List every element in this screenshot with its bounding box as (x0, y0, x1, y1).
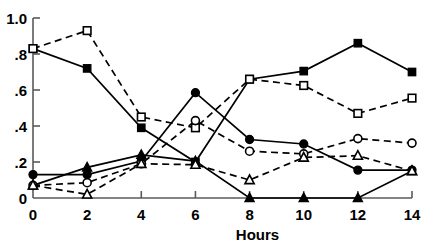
y-tick-label: .4 (14, 118, 27, 135)
x-tick-label: 0 (29, 206, 37, 223)
series-filled-circle-marker (300, 140, 308, 148)
series-open-square-marker (408, 94, 416, 102)
x-tick-label: 2 (83, 206, 91, 223)
series-filled-square-marker (408, 68, 415, 75)
series-markers (28, 27, 416, 202)
series-filled-square-marker (354, 40, 361, 47)
series-filled-circle-marker (246, 136, 254, 144)
series-open-circle-marker (408, 139, 416, 147)
series-line-filled-circle (33, 93, 412, 175)
series-filled-circle-marker (191, 89, 199, 97)
series-filled-square-marker (300, 67, 307, 74)
x-tick-label: 6 (191, 206, 199, 223)
series-filled-circle-marker (29, 171, 37, 179)
series-open-circle-marker (354, 135, 362, 143)
y-tick-label: 1.0 (6, 10, 27, 27)
series-open-square-marker (137, 113, 145, 121)
series-open-circle-marker (191, 117, 199, 125)
line-chart: 0.2.4.6.81.002468101214Hours (0, 0, 428, 246)
series-open-square-marker (29, 45, 37, 53)
x-tick-label: 10 (295, 206, 312, 223)
series-line-filled-square (33, 43, 412, 162)
series-open-square-marker (300, 82, 308, 90)
series-open-circle-marker (246, 147, 254, 155)
x-tick-label: 14 (404, 206, 421, 223)
x-tick-label: 12 (350, 206, 367, 223)
series-open-square-marker (246, 75, 254, 83)
y-tick-label: .6 (14, 82, 27, 99)
x-tick-label: 8 (245, 206, 253, 223)
series-open-circle-marker (83, 179, 91, 187)
series-filled-square-marker (83, 65, 90, 72)
series-open-square-marker (83, 27, 91, 35)
x-axis-title: Hours (236, 226, 279, 243)
y-tick-label: .2 (14, 154, 27, 171)
chart-container: 0.2.4.6.81.002468101214Hours (0, 0, 428, 246)
series-filled-square (29, 40, 415, 166)
y-tick-label: 0 (19, 190, 27, 207)
series-filled-circle-marker (83, 171, 91, 179)
series-filled-square-marker (138, 124, 145, 131)
series-open-square-marker (354, 110, 362, 118)
x-tick-label: 4 (137, 206, 146, 223)
series-filled-circle-marker (354, 166, 362, 174)
y-tick-label: .8 (14, 46, 27, 63)
